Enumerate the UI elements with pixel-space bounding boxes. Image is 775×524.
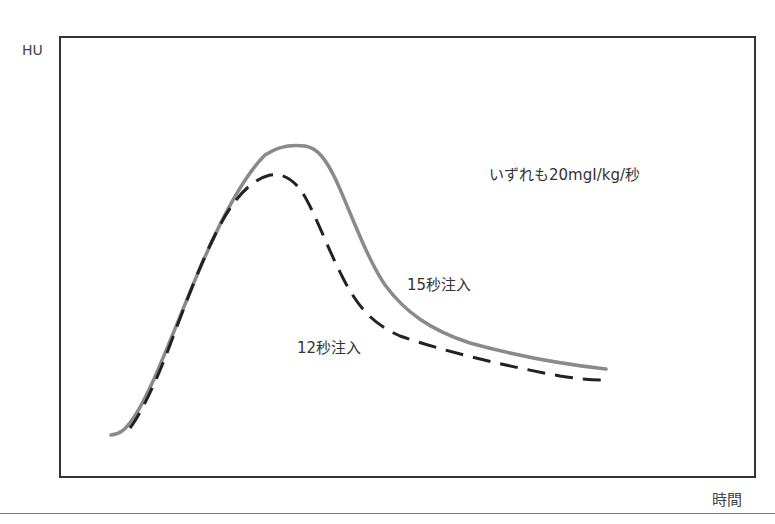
dose-annotation: いずれも20mgI/kg/秒 (489, 163, 640, 184)
series-label-15s: 15秒注入 (407, 273, 471, 294)
bottom-divider (0, 513, 775, 514)
curve-15s-injection (111, 145, 606, 435)
curve-12s-injection (130, 175, 608, 428)
plot-area (0, 0, 775, 524)
x-axis-label: 時間 (712, 488, 742, 509)
series-label-12s: 12秒注入 (297, 336, 361, 357)
